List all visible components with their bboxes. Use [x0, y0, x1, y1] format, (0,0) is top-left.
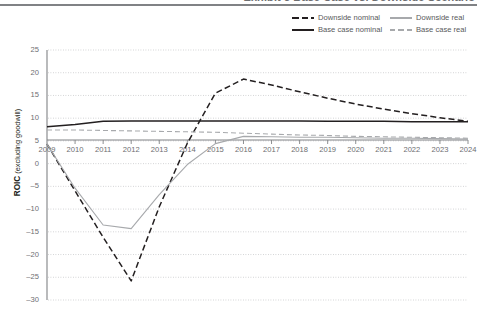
series-line-downside-nominal	[47, 79, 468, 281]
gridlines	[48, 50, 468, 300]
series-line-downside-real	[47, 136, 468, 228]
series-lines	[47, 79, 468, 281]
x-tick-marks	[75, 140, 468, 144]
plot-area	[0, 0, 477, 316]
chart-figure: Exhibit 5 Base Case vs. Downside Scenari…	[0, 0, 477, 316]
series-line-base-case-nominal	[47, 121, 468, 127]
